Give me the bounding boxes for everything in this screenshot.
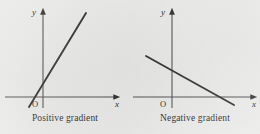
positive-gradient-caption: Positive gradient	[0, 112, 130, 124]
origin-label: O	[32, 99, 38, 109]
negative-slope-line	[146, 56, 234, 105]
origin-label: O	[160, 99, 166, 109]
y-axis-label: y	[31, 7, 36, 17]
y-axis-label: y	[160, 7, 165, 17]
x-axis-label: x	[114, 99, 119, 109]
negative-gradient-caption: Negative gradient	[130, 112, 260, 124]
x-axis-label: x	[251, 99, 256, 109]
positive-slope-line	[29, 13, 86, 107]
positive-gradient-panel: y x O Positive gradient	[0, 0, 130, 134]
negative-gradient-panel: y x O Negative gradient	[130, 0, 260, 134]
negative-gradient-diagram: y x O	[130, 0, 260, 112]
positive-gradient-diagram: y x O	[0, 0, 130, 112]
gradient-figure: y x O Positive gradient y x O Negativ	[0, 0, 260, 134]
